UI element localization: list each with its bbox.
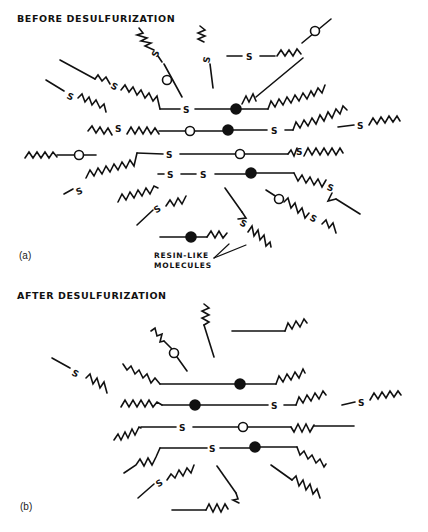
sulfur-label: S: [271, 401, 277, 411]
open-circle-icon: [239, 423, 248, 432]
sulfur-label: S: [209, 444, 215, 454]
sulfur-label: S: [154, 477, 165, 489]
chain: [86, 374, 107, 393]
chain: [285, 319, 307, 331]
chain: [296, 391, 326, 405]
chain: [268, 85, 325, 109]
chain: [86, 153, 137, 178]
chain: [284, 198, 309, 218]
panel-a-molecules: [25, 19, 400, 258]
filled-circle-icon: [186, 232, 196, 242]
filled-circle-icon: [190, 400, 200, 410]
chain: [121, 85, 160, 109]
chain: [369, 116, 400, 125]
chain: [304, 148, 343, 156]
sulfur-label: S: [308, 213, 319, 225]
chain: [137, 28, 154, 50]
chain: [198, 26, 205, 42]
filled-circle-icon: [246, 168, 256, 178]
sulfur-label: S: [271, 126, 277, 136]
sulfur-label: S: [201, 56, 212, 64]
chain: [88, 126, 112, 135]
chain: [151, 328, 164, 342]
chain: [167, 465, 194, 480]
panel-b-molecules: [52, 304, 401, 512]
sulfur-label: S: [65, 91, 75, 103]
sulfur-label: S: [179, 423, 185, 433]
sulfur-label: S: [115, 124, 121, 134]
sulfur-label: S: [167, 170, 173, 180]
sulfur-label: S: [246, 52, 252, 62]
open-circle-icon: [186, 127, 195, 136]
chain: [25, 152, 57, 158]
chain: [292, 476, 320, 498]
chain: [328, 193, 336, 201]
sulfur-label: S: [75, 185, 85, 197]
chain: [121, 400, 162, 407]
sulfur-label: S: [358, 398, 364, 408]
chain: [291, 424, 314, 432]
chain: [206, 504, 228, 512]
sulfur-label: S: [200, 170, 206, 180]
sulfur-label: S: [166, 150, 172, 160]
chain: [123, 364, 160, 384]
chain: [127, 127, 159, 134]
chain: [207, 231, 227, 238]
sulfur-label: S: [150, 49, 162, 59]
chain: [277, 49, 301, 56]
open-circle-icon: [170, 349, 179, 358]
sulfur-label: S: [326, 182, 336, 194]
filled-circle-icon: [250, 442, 260, 452]
chain: [233, 493, 239, 503]
sulfur-label: S: [183, 105, 189, 115]
chain: [166, 196, 186, 206]
filled-circle-icon: [223, 125, 233, 135]
chain: [276, 369, 305, 384]
open-circle-icon: [163, 76, 172, 85]
open-circle-icon: [275, 195, 284, 204]
sulfur-label: S: [70, 368, 80, 380]
chain: [114, 427, 141, 440]
chain: [202, 304, 209, 325]
chain: [248, 226, 271, 247]
chain: [297, 447, 326, 467]
chain: [294, 173, 326, 187]
chain: [322, 220, 336, 233]
sulfur-label: S: [357, 121, 363, 131]
chain: [78, 94, 106, 112]
sulfur-label: S: [109, 81, 120, 93]
chain: [95, 75, 110, 84]
chain: [118, 186, 158, 202]
chain: [124, 448, 160, 473]
chain: [242, 94, 256, 104]
filled-circle-icon: [231, 104, 241, 114]
sulfur-label: S: [296, 147, 302, 157]
open-circle-icon: [236, 150, 245, 159]
filled-circle-icon: [235, 379, 245, 389]
molecule-diagram: S S S S S S S S S S S S S S S S S S S S …: [0, 0, 428, 532]
chain: [370, 391, 401, 400]
sulfur-label: S: [152, 203, 163, 215]
open-circle-icon: [75, 151, 84, 160]
open-circle-icon: [311, 27, 320, 36]
